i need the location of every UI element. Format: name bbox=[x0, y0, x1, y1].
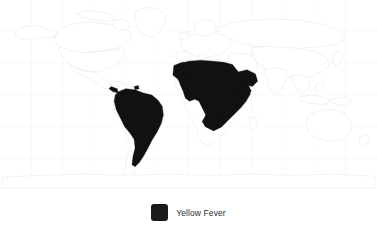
land-arctic-islands bbox=[75, 11, 117, 22]
land-southeast-asia bbox=[291, 75, 310, 93]
world-map-svg bbox=[0, 0, 377, 190]
highlight-south-america bbox=[114, 89, 163, 167]
legend: Yellow Fever bbox=[0, 192, 377, 233]
legend-swatch-icon bbox=[151, 204, 168, 221]
land-baffin bbox=[113, 19, 130, 31]
map-canvas bbox=[0, 0, 377, 190]
land-new-zealand bbox=[359, 134, 368, 147]
land-russia bbox=[216, 19, 346, 49]
land-indonesia bbox=[300, 95, 331, 105]
legend-label: Yellow Fever bbox=[176, 208, 226, 218]
legend-entry-yellow-fever[interactable]: Yellow Fever bbox=[151, 204, 226, 221]
land-alaska bbox=[15, 25, 57, 40]
land-madagascar bbox=[249, 116, 257, 131]
land-hispaniola bbox=[125, 83, 133, 87]
world-map-figure: Yellow Fever bbox=[0, 0, 377, 233]
land-new-guinea bbox=[331, 97, 352, 105]
land-greenland bbox=[134, 7, 165, 38]
land-antarctica bbox=[2, 174, 375, 188]
highlight-panama bbox=[109, 87, 118, 93]
highlight-trinidad bbox=[134, 86, 139, 90]
land-india bbox=[264, 68, 287, 95]
land-australia bbox=[306, 110, 352, 142]
land-central-asia bbox=[251, 46, 328, 78]
land-philippines bbox=[315, 82, 324, 93]
